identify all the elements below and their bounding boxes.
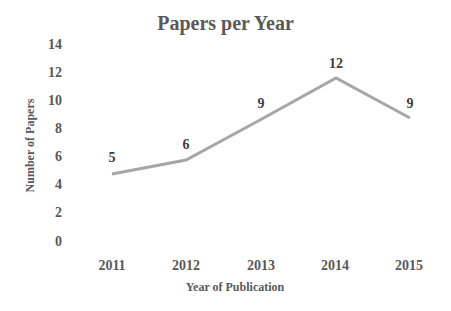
x-tick: 2011 (82, 258, 142, 274)
data-label: 5 (92, 150, 132, 166)
data-label: 6 (166, 137, 206, 153)
x-tick: 2012 (156, 258, 216, 274)
series-line (112, 78, 410, 174)
data-label: 12 (316, 56, 356, 72)
data-label: 9 (390, 96, 430, 112)
data-label: 9 (241, 96, 281, 112)
x-tick: 2015 (379, 258, 439, 274)
x-tick: 2013 (231, 258, 291, 274)
x-axis-label: Year of Publication (0, 280, 451, 295)
x-tick: 2014 (305, 258, 365, 274)
